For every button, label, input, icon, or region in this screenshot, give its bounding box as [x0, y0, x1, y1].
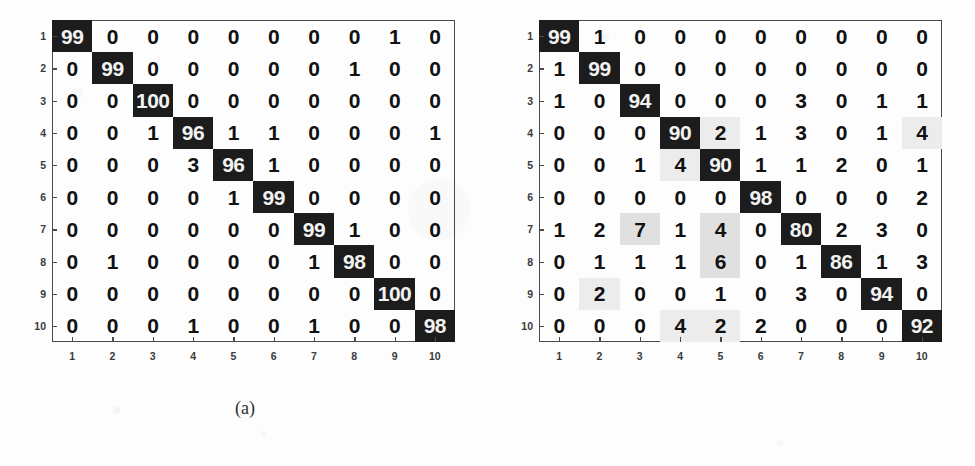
matrix-cell: 86: [821, 245, 861, 277]
matrix-cell: 0: [294, 52, 334, 84]
x-axis-tick: [640, 337, 641, 342]
matrix-cell: 1: [334, 213, 374, 245]
y-axis-tick: [52, 197, 57, 198]
matrix-cell: 0: [539, 117, 579, 149]
y-axis-tick-label: 7: [509, 224, 533, 235]
matrix-cell: 1: [620, 245, 660, 277]
matrix-cell: 0: [52, 181, 92, 213]
matrix-cell: 0: [294, 181, 334, 213]
y-axis-tick: [539, 36, 544, 37]
matrix-cell: 1: [579, 20, 619, 52]
x-axis-tick-label: 5: [221, 351, 245, 362]
matrix-cell: 0: [415, 278, 455, 310]
matrix-cell: 0: [173, 278, 213, 310]
x-axis-tick-label: 9: [383, 351, 407, 362]
y-axis-tick-label: 1: [22, 31, 46, 42]
y-axis-tick: [539, 326, 544, 327]
x-axis-tick-label: 2: [587, 351, 611, 362]
y-axis-tick-label: 2: [509, 63, 533, 74]
matrix-cell: 0: [173, 213, 213, 245]
matrix-cell: 0: [579, 84, 619, 116]
matrix-cell: 1: [861, 84, 901, 116]
matrix-cell: 0: [133, 20, 173, 52]
matrix-cell: 4: [902, 117, 942, 149]
matrix-cell: 1: [902, 149, 942, 181]
confusion-matrix-b: 9910000000019900000000109400030110009021…: [539, 20, 942, 342]
y-axis-tick-label: 7: [22, 224, 46, 235]
matrix-cell: 0: [660, 181, 700, 213]
matrix-cell: 1: [861, 117, 901, 149]
y-axis-tick-label: 3: [509, 96, 533, 107]
y-axis-tick-label: 1: [509, 31, 533, 42]
matrix-cell: 0: [52, 245, 92, 277]
matrix-cell: 0: [861, 20, 901, 52]
matrix-cell: 0: [579, 149, 619, 181]
matrix-cell: 0: [374, 213, 414, 245]
y-axis-tick-label: 3: [22, 96, 46, 107]
matrix-cell: 0: [660, 20, 700, 52]
y-axis-tick: [52, 101, 57, 102]
matrix-cell: 0: [52, 278, 92, 310]
matrix-cell: 0: [415, 52, 455, 84]
y-axis-tick-label: 9: [22, 289, 46, 300]
matrix-cell: 0: [539, 181, 579, 213]
y-axis-tick: [539, 197, 544, 198]
x-axis-tick: [395, 337, 396, 342]
matrix-cell: 99: [52, 20, 92, 52]
matrix-cell: 0: [660, 84, 700, 116]
y-axis-tick: [52, 294, 57, 295]
matrix-cell: 1: [740, 117, 780, 149]
y-axis-tick: [539, 294, 544, 295]
x-axis-tick: [193, 337, 194, 342]
matrix-cell: 0: [92, 181, 132, 213]
matrix-cell: 0: [620, 181, 660, 213]
matrix-cell: 0: [294, 278, 334, 310]
x-axis-tick: [559, 337, 560, 342]
matrix-cell: 0: [92, 117, 132, 149]
matrix-cell: 0: [253, 52, 293, 84]
matrix-cell: 0: [213, 278, 253, 310]
matrix-cell: 0: [660, 52, 700, 84]
matrix-cell: 1: [539, 84, 579, 116]
x-axis-tick-label: 10: [910, 351, 934, 362]
matrix-cell: 1: [213, 117, 253, 149]
x-axis-tick-label: 4: [668, 351, 692, 362]
matrix-cell: 0: [133, 181, 173, 213]
matrix-cell: 100: [133, 84, 173, 116]
matrix-cell: 0: [579, 117, 619, 149]
y-axis-tick-label: 10: [509, 321, 533, 332]
y-axis-tick-label: 8: [22, 257, 46, 268]
matrix-cell: 0: [133, 52, 173, 84]
matrix-cell: 3: [781, 117, 821, 149]
matrix-cell: 0: [253, 278, 293, 310]
y-axis-tick-label: 6: [22, 192, 46, 203]
x-axis-tick: [720, 337, 721, 342]
matrix-cell: 0: [861, 52, 901, 84]
x-axis-tick: [801, 337, 802, 342]
matrix-cell: 96: [213, 149, 253, 181]
matrix-cell: 0: [173, 52, 213, 84]
x-axis-tick-label: 7: [302, 351, 326, 362]
matrix-cell: 0: [92, 213, 132, 245]
matrix-cell: 0: [740, 245, 780, 277]
matrix-cell: 0: [902, 278, 942, 310]
matrix-cell: 0: [253, 245, 293, 277]
matrix-cell: 0: [133, 278, 173, 310]
matrix-cell: 1: [781, 245, 821, 277]
matrix-cell: 0: [821, 181, 861, 213]
matrix-cell: 0: [620, 117, 660, 149]
matrix-cell: 0: [415, 20, 455, 52]
x-axis-tick-label: 10: [423, 351, 447, 362]
x-axis-tick-label: 3: [141, 351, 165, 362]
matrix-cell: 94: [861, 278, 901, 310]
matrix-cell: 0: [861, 181, 901, 213]
y-axis-tick-label: 5: [509, 160, 533, 171]
matrix-cell: 2: [821, 149, 861, 181]
matrix-cell: 0: [374, 117, 414, 149]
matrix-cell: 0: [334, 20, 374, 52]
matrix-cell: 0: [334, 149, 374, 181]
matrix-cell: 3: [781, 84, 821, 116]
matrix-cell: 0: [213, 213, 253, 245]
matrix-cell: 4: [700, 213, 740, 245]
x-axis-tick-label: 8: [829, 351, 853, 362]
